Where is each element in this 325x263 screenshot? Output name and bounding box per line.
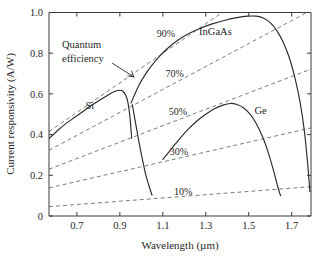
- annotation-arrow-shaft: [112, 63, 134, 77]
- x-tick-label: 0.9: [113, 220, 126, 231]
- y-tick-label: 0.8: [30, 48, 43, 59]
- series-label-ge: Ge: [254, 105, 267, 116]
- x-tick-label: 1.3: [199, 220, 212, 231]
- y-tick-label: 0.2: [30, 170, 43, 181]
- curve-ingaas: [132, 104, 152, 195]
- y-tick-label: 0: [38, 211, 43, 222]
- y-axis-title: Current responsivity (A/W): [4, 53, 17, 175]
- qe-line-70: [49, 10, 311, 150]
- x-tick-label: 1.7: [285, 220, 298, 231]
- x-tick-label: 1.5: [242, 220, 255, 231]
- qe-label-10: 10%: [174, 186, 192, 197]
- y-tick-label: 1.0: [30, 7, 43, 18]
- qe-label-50: 50%: [169, 106, 187, 117]
- quantum-efficiency-annotation-line1: Quantum: [62, 39, 101, 50]
- x-tick-label: 0.7: [70, 220, 83, 231]
- y-tick-label: 0.6: [30, 89, 43, 100]
- y-tick-label: 0.4: [30, 129, 44, 140]
- x-axis-title: Wavelength (µm): [141, 239, 219, 252]
- series-label-si: Si: [85, 100, 94, 111]
- qe-label-70: 70%: [165, 68, 183, 79]
- chart-canvas: 0.70.91.11.31.51.7 00.20.40.60.81.0 90%7…: [0, 0, 325, 263]
- qe-line-30: [49, 128, 311, 188]
- series-label-ingaas: InGaAs: [199, 26, 232, 37]
- x-axis-tick-labels: 0.70.91.11.31.51.7: [70, 220, 298, 231]
- x-tick-label: 1.1: [156, 220, 169, 231]
- curve-si: [49, 90, 132, 138]
- qe-label-30: 30%: [170, 146, 188, 157]
- y-axis-tick-labels: 00.20.40.60.81.0: [30, 7, 44, 222]
- quantum-efficiency-annotation: Quantum efficiency: [62, 39, 134, 77]
- quantum-efficiency-annotation-line2: efficiency: [62, 53, 105, 64]
- responsivity-chart-figure: 0.70.91.11.31.51.7 00.20.40.60.81.0 90%7…: [0, 0, 325, 263]
- qe-label-90: 90%: [157, 28, 175, 39]
